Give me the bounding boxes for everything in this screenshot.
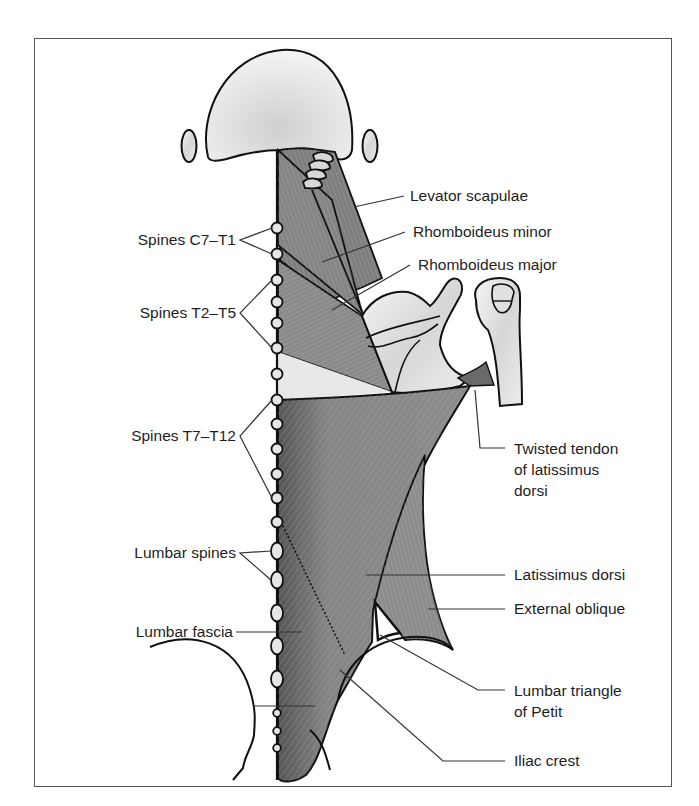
left-ear-shape <box>182 130 197 162</box>
label-levator-scapulae: Levator scapulae <box>410 187 528 205</box>
teres-muscle-wedge <box>458 362 494 386</box>
label-lumbar-triangle: Lumbar triangle of Petit <box>514 680 622 722</box>
label-external-oblique: External oblique <box>514 600 625 618</box>
label-spines-t2-t5: Spines T2–T5 <box>140 304 236 322</box>
label-latissimus-dorsi: Latissimus dorsi <box>514 566 625 584</box>
latissimus-dorsi-muscle <box>278 386 470 782</box>
label-lumbar-spines: Lumbar spines <box>134 544 236 562</box>
skull-shape <box>206 50 352 161</box>
label-spines-c7-t1: Spines C7–T1 <box>138 231 236 249</box>
label-lumbar-fascia: Lumbar fascia <box>136 623 233 641</box>
right-ear-shape <box>363 130 378 162</box>
label-rhomboideus-major: Rhomboideus major <box>418 256 557 274</box>
label-spines-t7-t12: Spines T7–T12 <box>131 427 236 445</box>
label-rhomboideus-minor: Rhomboideus minor <box>413 223 552 241</box>
label-twisted-tendon: Twisted tendon of latissimus dorsi <box>514 438 618 501</box>
label-iliac-crest: Iliac crest <box>514 752 579 770</box>
humerus-bone <box>475 278 522 406</box>
